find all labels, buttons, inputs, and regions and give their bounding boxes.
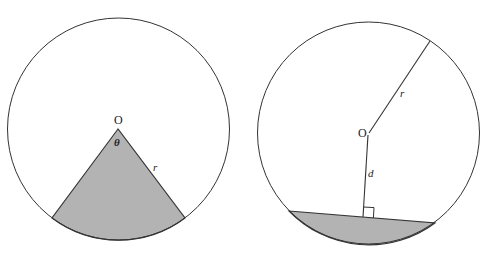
right-angle-marker (364, 207, 374, 218)
angle-label: θ (114, 136, 120, 148)
center-label-right: O (358, 126, 367, 140)
distance-label: d (368, 167, 374, 179)
radius-label-left: r (153, 161, 158, 173)
center-label-left: O (114, 113, 123, 127)
diagram-canvas: O θ r O r d (0, 0, 484, 254)
segment-figure: O r d (258, 22, 480, 245)
sector-figure: O θ r (8, 18, 230, 240)
radius-label-right: r (400, 87, 405, 99)
